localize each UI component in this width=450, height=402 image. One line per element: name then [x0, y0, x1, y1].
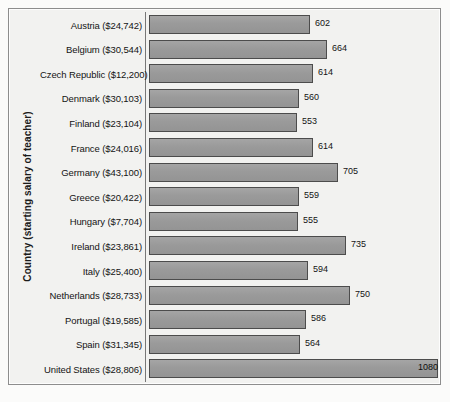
category-label: Denmark ($30,103) [40, 93, 146, 104]
bar-track: 750 [146, 286, 438, 306]
bar-value-label: 555 [298, 215, 318, 225]
category-label: United States ($28,806) [40, 364, 146, 375]
bar-value-label: 553 [297, 116, 317, 126]
bar-row: Germany ($43,100)705 [40, 162, 438, 184]
bar-chart-figure: Country (starting salary of teacher) Aus… [0, 0, 450, 402]
category-label: Netherlands ($28,733) [40, 290, 146, 301]
bar-row: Portugal ($19,585)586 [40, 309, 438, 331]
category-label: Germany ($43,100) [40, 167, 146, 178]
bar [149, 310, 306, 329]
category-label: Austria ($24,742) [40, 20, 146, 31]
bar-value-label: 664 [327, 43, 347, 53]
bar [149, 89, 299, 108]
bar-row: Netherlands ($28,733)750 [40, 285, 438, 307]
bar-row: Hungary ($7,704)555 [40, 211, 438, 233]
category-label: Greece ($20,422) [40, 192, 146, 203]
bar [149, 261, 308, 280]
category-label: Spain ($31,345) [40, 339, 146, 350]
bar-row: Greece ($20,422)559 [40, 186, 438, 208]
bars-area: Austria ($24,742)602Belgium ($30,544)664… [40, 12, 438, 382]
bar-track: 553 [146, 113, 438, 133]
category-label: Hungary ($7,704) [40, 216, 146, 227]
bar-track: 564 [146, 335, 438, 355]
bar [149, 40, 327, 59]
bar-track: 560 [146, 89, 438, 109]
bar-track: 602 [146, 15, 438, 35]
bar-row: United States ($28,806)1080 [40, 358, 438, 380]
category-label: Czech Republic ($12,200) [40, 69, 146, 80]
bar-value-label: 594 [308, 264, 328, 274]
bar-value-label: 750 [350, 289, 370, 299]
category-label: Finland ($23,104) [40, 118, 146, 129]
bar [149, 335, 300, 354]
bar [149, 138, 313, 157]
bar-track: 705 [146, 163, 438, 183]
bar-value-label: 586 [306, 313, 326, 323]
bar-track: 594 [146, 261, 438, 281]
bar [149, 212, 298, 231]
bar [149, 15, 310, 34]
bar-track: 1080 [146, 359, 438, 379]
bar-row: Austria ($24,742)602 [40, 14, 438, 36]
bar-value-label: 1080 [149, 362, 444, 372]
bar [149, 64, 313, 83]
bar [149, 187, 299, 206]
bar-value-label: 560 [299, 92, 319, 102]
bar-track: 555 [146, 212, 438, 232]
category-label: France ($24,016) [40, 143, 146, 154]
bar-row: Spain ($31,345)564 [40, 334, 438, 356]
bar-row: Finland ($23,104)553 [40, 112, 438, 134]
bar-row: Belgium ($30,544)664 [40, 39, 438, 61]
bar [149, 286, 350, 305]
bar-value-label: 614 [313, 141, 333, 151]
category-label: Belgium ($30,544) [40, 44, 146, 55]
bar-row: Ireland ($23,861)735 [40, 235, 438, 257]
bar [149, 113, 297, 132]
bar-value-label: 564 [300, 338, 320, 348]
bar [149, 163, 338, 182]
bar-row: Czech Republic ($12,200)614 [40, 63, 438, 85]
bar-value-label: 602 [310, 18, 330, 28]
bar-track: 735 [146, 236, 438, 256]
bar-track: 614 [146, 64, 438, 84]
bar-row: Denmark ($30,103)560 [40, 88, 438, 110]
category-label: Portugal ($19,585) [40, 315, 146, 326]
bar-row: Italy ($25,400)594 [40, 260, 438, 282]
bar-track: 614 [146, 138, 438, 158]
category-label: Italy ($25,400) [40, 266, 146, 277]
bar [149, 236, 346, 255]
bar-track: 664 [146, 40, 438, 60]
bar-track: 586 [146, 310, 438, 330]
category-label: Ireland ($23,861) [40, 241, 146, 252]
bar-value-label: 559 [299, 190, 319, 200]
bar-value-label: 705 [338, 166, 358, 176]
bar-row: France ($24,016)614 [40, 137, 438, 159]
bar-track: 559 [146, 187, 438, 207]
bar-value-label: 735 [346, 239, 366, 249]
bar-value-label: 614 [313, 67, 333, 77]
